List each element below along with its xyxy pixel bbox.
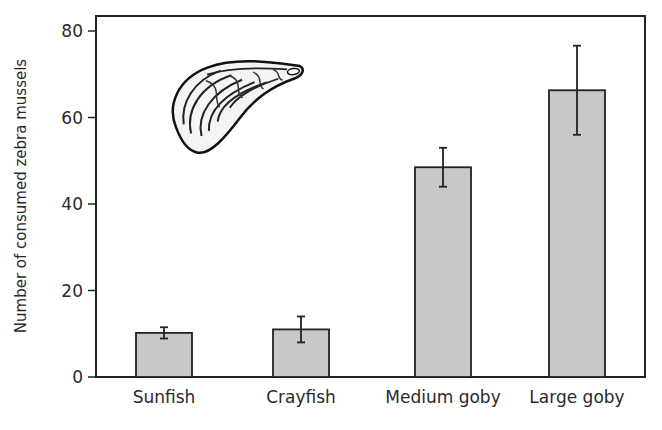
x-tick-label: Large goby <box>529 387 624 407</box>
y-axis-label: Number of consumed zebra mussels <box>12 59 30 334</box>
y-tick-label: 0 <box>72 367 83 387</box>
y-tick-label: 80 <box>61 21 83 41</box>
x-tick-label: Sunfish <box>133 387 196 407</box>
y-tick-label: 60 <box>61 108 83 128</box>
x-tick-label: Medium goby <box>385 387 500 407</box>
y-axis-ticks: 020406080 <box>61 21 96 387</box>
zebra-mussel-illustration-icon <box>167 52 312 156</box>
bar-chart: 020406080 SunfishCrayfishMedium gobyLarg… <box>0 0 662 430</box>
bar-sunfish <box>136 333 192 377</box>
y-tick-label: 40 <box>61 194 83 214</box>
x-tick-label: Crayfish <box>266 387 336 407</box>
x-axis-labels: SunfishCrayfishMedium gobyLarge goby <box>133 387 625 407</box>
bar-medium-goby <box>415 167 471 377</box>
y-tick-label: 20 <box>61 281 83 301</box>
